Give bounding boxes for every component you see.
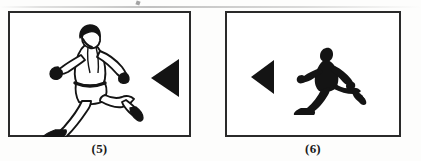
panel-5-caption: (5) [8,141,191,157]
worksheet-figure-sheet: (5) [0,0,421,161]
panel-5-frame [8,11,191,137]
runner-outline-figure [38,17,148,137]
triangle-left-icon [249,57,277,97]
panel-6-caption: (6) [225,141,401,157]
scan-artifact-streak [0,6,421,8]
panel-6-frame [225,11,401,137]
runner-silhouette-figure [293,45,367,115]
scan-artifact-speck [135,0,140,5]
triangle-left-icon [149,57,183,99]
